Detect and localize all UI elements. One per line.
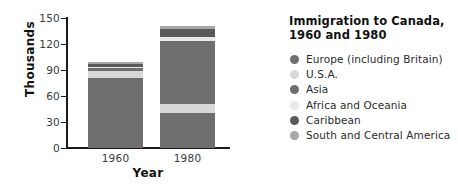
chart-legend: Europe (including Britain)U.S.A.AsiaAfri…: [289, 52, 458, 143]
bar-segment: [160, 113, 215, 148]
legend-item: Europe (including Britain): [289, 52, 458, 67]
y-axis-line: [66, 17, 68, 149]
y-axis-tick-label-wrap: 30: [0, 117, 60, 127]
chart-title-line-2: 1960 and 1980: [289, 28, 457, 42]
y-axis-tick: [61, 70, 66, 71]
y-axis-tick: [61, 18, 66, 19]
y-axis-tick: [61, 122, 66, 123]
y-axis-title: Thousands: [23, 1, 37, 117]
bar-segment: [160, 104, 215, 114]
legend-item-label: Europe (including Britain): [306, 52, 443, 66]
bar-segment: [88, 67, 143, 69]
bar-segment: [88, 62, 143, 64]
x-axis-tick-label: 1980: [153, 152, 223, 164]
bar-segment: [88, 78, 143, 148]
legend-item: South and Central America: [289, 128, 458, 143]
bar-segment: [160, 41, 215, 103]
bar-segment: [160, 26, 215, 29]
legend-item: Caribbean: [289, 113, 458, 128]
bar-segment: [88, 68, 143, 71]
legend-item-label: Caribbean: [306, 113, 361, 127]
plot-area: 1501209060300 Thousands 19601980 Year: [0, 0, 240, 184]
y-axis-tick: [61, 148, 66, 149]
legend-swatch-circle-icon: [290, 101, 299, 110]
legend-item: Africa and Oceania: [289, 98, 458, 113]
bar-segment: [160, 29, 215, 37]
bar-segment: [88, 71, 143, 78]
bar-segment: [160, 37, 215, 41]
chart-figure: 1501209060300 Thousands 19601980 Year Im…: [0, 0, 458, 184]
chart-title: Immigration to Canada, 1960 and 1980: [289, 14, 457, 42]
y-axis-tick-label-wrap: 0: [0, 143, 60, 153]
legend-item: Asia: [289, 82, 458, 97]
legend-swatch-circle-icon: [290, 55, 299, 64]
y-axis-tick: [61, 96, 66, 97]
legend-item-label: South and Central America: [306, 128, 450, 142]
legend-item-label: Asia: [306, 82, 328, 96]
legend-swatch-circle-icon: [290, 131, 299, 140]
legend-swatch-circle-icon: [290, 70, 299, 79]
y-axis-tick: [61, 44, 66, 45]
caption-panel: Immigration to Canada, 1960 and 1980 Eur…: [286, 0, 458, 184]
chart-title-line-1: Immigration to Canada,: [289, 14, 457, 28]
legend-item-label: U.S.A.: [306, 67, 338, 81]
legend-item-label: Africa and Oceania: [306, 98, 407, 112]
x-axis-title: Year: [66, 166, 230, 180]
y-axis-tick-label: 30: [22, 117, 60, 127]
x-axis-tick-label: 1960: [81, 152, 151, 164]
y-axis-tick-label: 0: [22, 143, 60, 153]
bar-segment: [88, 64, 143, 67]
legend-item: U.S.A.: [289, 67, 458, 82]
legend-swatch-circle-icon: [290, 116, 299, 125]
legend-swatch-circle-icon: [290, 85, 299, 94]
